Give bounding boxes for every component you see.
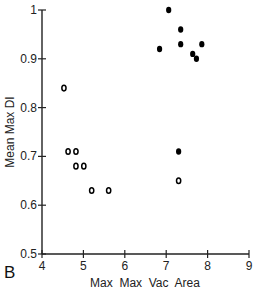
x-tick-label: 9 — [246, 259, 253, 273]
y-tick-label: 0.9 — [20, 52, 37, 66]
hollow-point — [62, 85, 66, 91]
data-points — [62, 7, 205, 194]
y-tick-label: 0.7 — [20, 149, 37, 163]
hollow-point — [74, 163, 78, 169]
filled-point — [176, 148, 181, 154]
filled-point — [199, 41, 204, 47]
x-tick-label: 7 — [163, 259, 170, 273]
scatter-chart: 4567890.50.60.70.80.91 Max Max Vac Area … — [0, 0, 259, 293]
x-axis-title: Max Max Vac Area — [90, 276, 200, 290]
hollow-point — [90, 188, 94, 194]
axes: 4567890.50.60.70.80.91 — [20, 3, 252, 273]
filled-point — [194, 56, 199, 62]
y-tick-label: 1 — [30, 3, 37, 17]
panel-label: B — [4, 263, 15, 282]
x-tick-label: 5 — [80, 259, 87, 273]
hollow-point — [66, 149, 70, 155]
hollow-point — [107, 188, 111, 194]
y-tick-label: 0.8 — [20, 101, 37, 115]
x-tick-label: 4 — [39, 259, 46, 273]
filled-point — [157, 46, 162, 52]
y-tick-label: 0.6 — [20, 198, 37, 212]
hollow-point — [177, 178, 181, 184]
filled-point — [178, 26, 183, 32]
y-tick-label: 0.5 — [20, 247, 37, 261]
hollow-point — [82, 163, 86, 169]
x-tick-label: 8 — [204, 259, 211, 273]
y-axis-title: Mean Max DI — [3, 96, 17, 167]
x-tick-label: 6 — [121, 259, 128, 273]
filled-point — [166, 7, 171, 13]
hollow-point — [74, 149, 78, 155]
filled-point — [178, 41, 183, 47]
filled-point — [190, 51, 195, 57]
